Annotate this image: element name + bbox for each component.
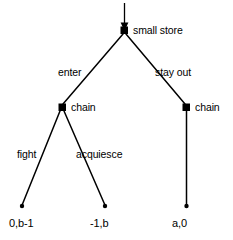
terminal-node-stay-out [184, 204, 188, 208]
payoff-fight: 0,b-1 [9, 217, 34, 229]
game-tree-diagram: small store chain chain enter stay out f… [0, 0, 233, 240]
node-label-chain-right: chain [195, 101, 220, 113]
payoff-acquiesce: -1,b [90, 217, 109, 229]
node-label-small-store: small store [133, 24, 183, 36]
node-label-chain-left: chain [71, 101, 96, 113]
edge-label-stay-out: stay out [155, 66, 191, 78]
node-small-store [121, 27, 129, 35]
terminal-node-fight [20, 204, 24, 208]
node-chain-right [183, 104, 191, 112]
terminal-node-acquiesce [103, 204, 107, 208]
game-tree-canvas: small store chain chain enter stay out f… [0, 0, 233, 240]
edge-label-acquiesce: acquiesce [76, 148, 123, 160]
edge-label-fight: fight [17, 148, 37, 160]
node-chain-left [59, 104, 67, 112]
payoff-stay-out: a,0 [172, 217, 187, 229]
edge-label-enter: enter [58, 66, 82, 78]
